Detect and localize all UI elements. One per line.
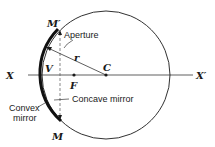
convex-mirror-label-line2: mirror — [13, 113, 37, 123]
aperture-pointer — [64, 40, 73, 48]
label-f: F — [69, 80, 78, 91]
concave-pointer — [54, 99, 69, 100]
focal-point — [72, 73, 75, 76]
label-v: V — [45, 63, 54, 74]
mirror-diagram: M′ M V C F r X X′ Aperture Concave mirro… — [0, 0, 215, 147]
label-m: M — [51, 131, 64, 142]
convex-mirror-label-line1: Convex — [9, 103, 40, 113]
label-m-prime: M′ — [46, 18, 61, 29]
aperture-label: Aperture — [64, 30, 99, 40]
label-r: r — [74, 52, 80, 63]
label-x-prime: X′ — [195, 70, 207, 81]
label-c: C — [103, 62, 111, 73]
concave-mirror-label: Concave mirror — [72, 94, 134, 104]
center-point — [104, 73, 107, 76]
label-x: X — [5, 70, 15, 81]
